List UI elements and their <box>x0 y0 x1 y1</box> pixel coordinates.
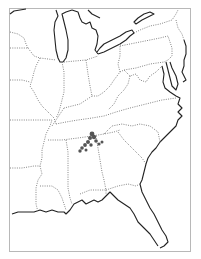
location-marker[interactable] <box>101 141 104 144</box>
location-marker[interactable] <box>88 136 92 140</box>
location-marker[interactable] <box>94 139 98 143</box>
data-markers <box>78 132 103 153</box>
location-marker[interactable] <box>78 149 81 152</box>
location-marker[interactable] <box>97 142 100 145</box>
location-marker[interactable] <box>92 135 96 139</box>
location-marker[interactable] <box>89 143 92 146</box>
location-marker[interactable] <box>83 143 87 147</box>
location-marker[interactable] <box>80 146 84 150</box>
location-marker[interactable] <box>86 140 90 144</box>
location-marker[interactable] <box>85 149 88 152</box>
coastlines <box>10 9 186 248</box>
eastern-us-map[interactable] <box>0 0 201 259</box>
